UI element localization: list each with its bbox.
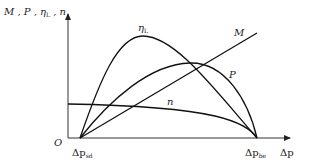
- label-eta-l: ηL: [138, 22, 148, 34]
- curve-m: [80, 33, 257, 138]
- curve-n: [68, 104, 257, 138]
- x-axis-label: Δp: [280, 147, 294, 158]
- label-m: M: [233, 27, 245, 38]
- label-n: n: [167, 96, 173, 107]
- tick-label-be: Δpbe: [245, 147, 266, 159]
- label-p: P: [228, 69, 236, 80]
- y-axis-label: M , P , ηL , n: [3, 6, 66, 18]
- tick-label-sd: Δpsd: [72, 147, 93, 159]
- origin-label: O: [54, 137, 62, 148]
- performance-chart: M , P , ηL , n O Δpsd Δpbe Δp ηL M P n: [0, 0, 310, 164]
